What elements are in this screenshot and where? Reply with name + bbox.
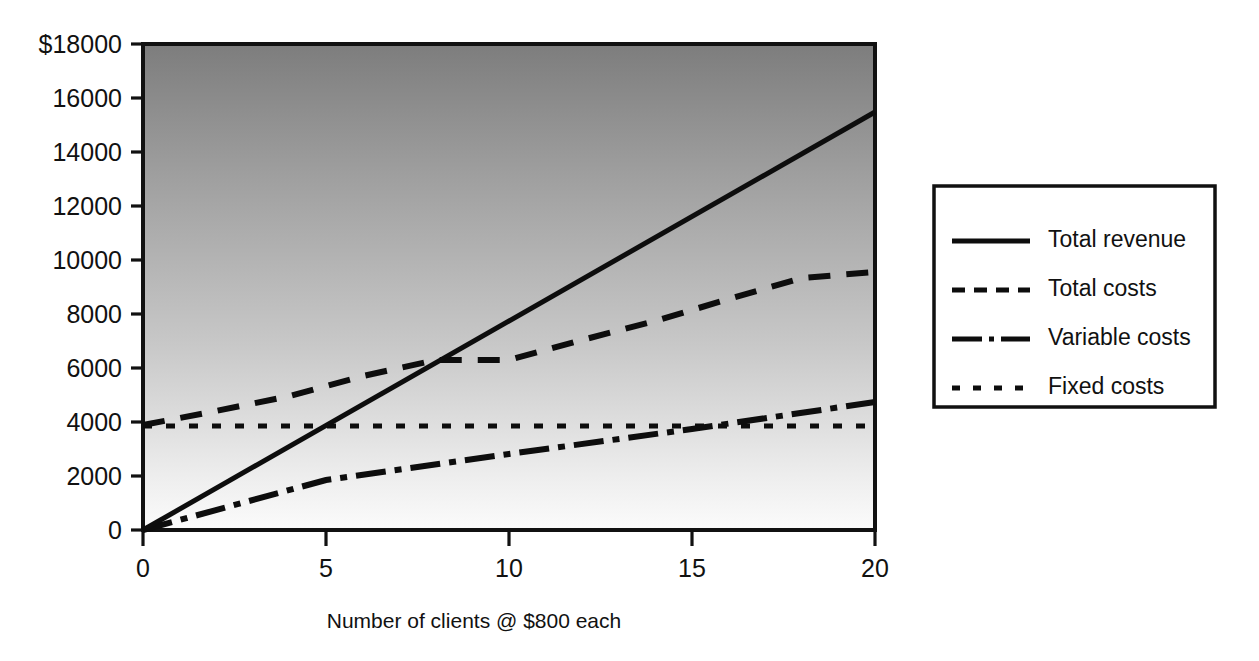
x-axis-title: Number of clients @ $800 each [327, 609, 621, 632]
y-axis: 0 2000 4000 6000 8000 10000 12000 14000 … [39, 30, 143, 544]
y-tick-label-14000: 14000 [52, 138, 122, 166]
y-tick-label-4000: 4000 [66, 408, 122, 436]
legend-label-total-revenue: Total revenue [1048, 226, 1186, 252]
legend-label-total-costs: Total costs [1048, 275, 1157, 301]
y-tick-label-10000: 10000 [52, 246, 122, 274]
chart-container: 0 2000 4000 6000 8000 10000 12000 14000 … [0, 0, 1259, 661]
y-tick-label-2000: 2000 [66, 462, 122, 490]
y-tick-label-18000: $18000 [39, 30, 122, 58]
break-even-chart: 0 2000 4000 6000 8000 10000 12000 14000 … [0, 0, 1259, 661]
plot-area-background [143, 44, 875, 530]
x-tick-label-0: 0 [136, 554, 150, 582]
y-tick-label-6000: 6000 [66, 354, 122, 382]
x-tick-label-20: 20 [861, 554, 889, 582]
legend: Total revenue Total costs Variable costs… [934, 186, 1215, 407]
x-tick-label-10: 10 [495, 554, 523, 582]
legend-label-variable-costs: Variable costs [1048, 324, 1191, 350]
y-tick-label-16000: 16000 [52, 84, 122, 112]
y-tick-label-8000: 8000 [66, 300, 122, 328]
x-tick-label-15: 15 [678, 554, 706, 582]
x-axis: 0 5 10 15 20 [136, 530, 889, 582]
legend-label-fixed-costs: Fixed costs [1048, 373, 1164, 399]
x-tick-label-5: 5 [319, 554, 333, 582]
y-tick-label-0: 0 [108, 516, 122, 544]
y-tick-label-12000: 12000 [52, 192, 122, 220]
